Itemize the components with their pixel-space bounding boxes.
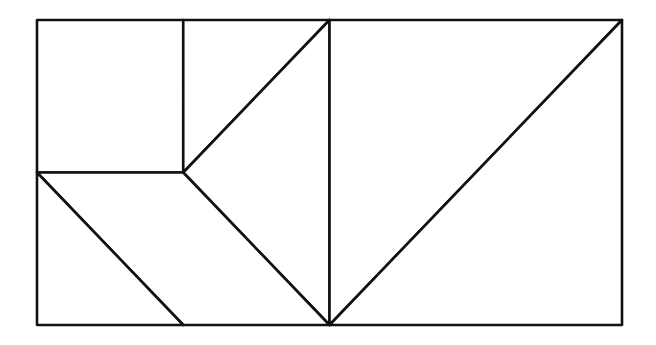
tangram-diagram (0, 0, 656, 345)
piece-square (37, 20, 183, 173)
pieces-group (37, 20, 622, 325)
